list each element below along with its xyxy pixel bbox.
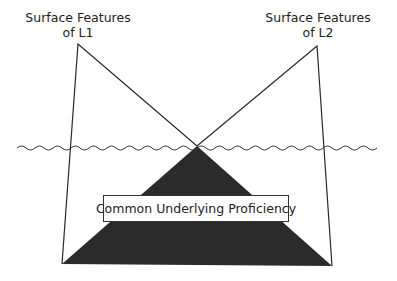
l2-label-line1: Surface Features [258, 10, 378, 25]
common-underlying-proficiency-label: Common Underlying Proficiency [103, 195, 289, 222]
diagram-canvas [0, 0, 397, 281]
l2-label-line2: of L2 [258, 25, 378, 40]
cup-diagram: Surface Features of L1 Surface Features … [0, 0, 397, 281]
l1-label-line2: of L1 [18, 25, 138, 40]
l2-surface-label: Surface Features of L2 [258, 10, 378, 40]
l1-label-line1: Surface Features [18, 10, 138, 25]
l1-surface-label: Surface Features of L1 [18, 10, 138, 40]
cup-label-text: Common Underlying Proficiency [96, 201, 296, 216]
